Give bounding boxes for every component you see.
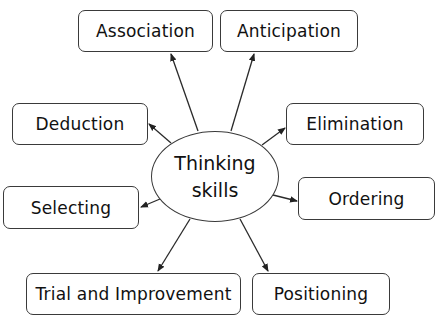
center-label-line1: Thinking: [174, 150, 255, 177]
node-association: Association: [78, 10, 213, 52]
node-label: Association: [96, 21, 195, 41]
node-selecting: Selecting: [3, 186, 139, 229]
arrow-to-deduction: [149, 124, 171, 143]
node-label: Trial and Improvement: [35, 284, 231, 304]
arrow-to-association: [171, 54, 198, 131]
arrow-to-trial-and-improvement: [158, 219, 190, 271]
node-positioning: Positioning: [252, 273, 390, 315]
node-ordering: Ordering: [298, 177, 435, 220]
center-label-line2: skills: [192, 177, 239, 204]
node-label: Elimination: [306, 114, 403, 134]
node-label: Anticipation: [237, 21, 341, 41]
arrow-to-positioning: [240, 219, 268, 271]
arrow-to-elimination: [262, 128, 285, 145]
node-label: Ordering: [328, 189, 404, 209]
node-label: Selecting: [31, 198, 112, 218]
node-label: Deduction: [36, 114, 125, 134]
center-node-thinking-skills: Thinking skills: [151, 131, 279, 222]
arrow-to-anticipation: [231, 54, 254, 131]
node-label: Positioning: [274, 284, 369, 304]
arrow-to-ordering: [273, 195, 297, 201]
node-elimination: Elimination: [286, 103, 424, 145]
node-deduction: Deduction: [12, 103, 148, 145]
node-trial-and-improvement: Trial and Improvement: [26, 273, 241, 315]
node-anticipation: Anticipation: [220, 10, 358, 52]
arrow-to-selecting: [141, 199, 160, 207]
